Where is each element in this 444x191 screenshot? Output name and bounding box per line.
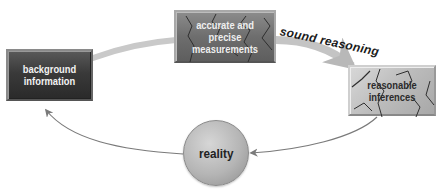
arrow-reality-to-background: [46, 110, 183, 154]
node-label: inferences: [367, 91, 416, 103]
node-background-information: background information: [6, 49, 93, 101]
swoosh-background-to-measurements: [93, 40, 176, 58]
node-accurate-measurements: accurate and precise measurements: [174, 10, 276, 63]
node-reality: reality: [183, 120, 249, 186]
node-reasonable-inferences: reasonable inferences: [348, 65, 436, 116]
node-label: reasonable: [367, 79, 416, 91]
node-label: measurements: [183, 43, 266, 55]
node-label: reality: [199, 146, 233, 161]
node-label: accurate and precise: [183, 19, 266, 43]
arrow-inferences-to-reality: [251, 117, 377, 153]
node-label: information: [23, 75, 77, 87]
node-label: background: [23, 63, 77, 75]
